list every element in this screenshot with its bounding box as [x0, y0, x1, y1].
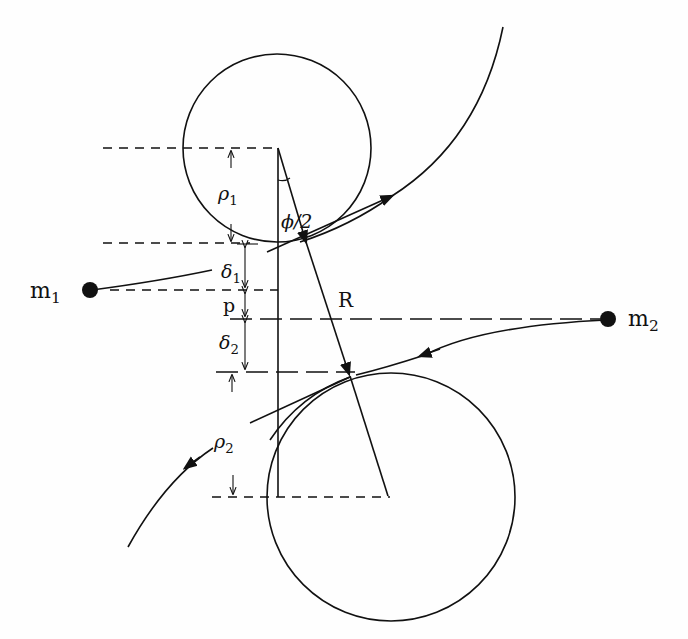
mass-1-dot — [82, 282, 98, 298]
m1-incoming-trajectory — [92, 270, 212, 290]
m2-incoming-trajectory — [356, 320, 606, 375]
label-rho1: ρ1 — [218, 184, 238, 207]
label-delta2-sub: 2 — [230, 342, 238, 357]
m2-arrow — [420, 349, 440, 356]
lower-circle — [267, 373, 515, 621]
label-delta1-sub: 1 — [232, 271, 240, 286]
label-p: p — [223, 296, 235, 315]
label-rho2-base: ρ — [214, 430, 225, 452]
label-m2-base: m — [628, 306, 649, 331]
label-rho1-base: ρ — [218, 182, 229, 204]
m1-outgoing-trajectory — [300, 27, 503, 242]
label-delta1: δ1 — [221, 262, 241, 285]
label-m2: m2 — [628, 308, 659, 335]
lower-radial-line — [350, 376, 388, 496]
label-R: R — [338, 290, 353, 310]
label-delta1-base: δ — [221, 260, 232, 282]
label-delta2-base: δ — [219, 331, 230, 353]
label-m1: m1 — [30, 280, 61, 307]
scattering-diagram: m1 m2 ρ1 ϕ/2 δ1 p δ2 R ρ2 — [0, 0, 688, 639]
label-m1-sub: 1 — [51, 289, 61, 307]
label-delta2: δ2 — [219, 333, 239, 356]
label-m1-base: m — [30, 278, 51, 303]
label-rho1-sub: 1 — [229, 193, 237, 208]
upper-circle — [183, 54, 371, 242]
label-half-angle: ϕ/2 — [281, 212, 312, 231]
m2-outgoing-trajectory — [128, 448, 213, 547]
label-m2-sub: 2 — [649, 317, 659, 335]
m2-outgoing-arrow — [185, 457, 200, 468]
mass-2-dot — [600, 311, 616, 327]
label-rho2: ρ2 — [214, 432, 234, 455]
diagram-svg — [0, 0, 688, 639]
label-rho2-sub: 2 — [225, 441, 233, 456]
